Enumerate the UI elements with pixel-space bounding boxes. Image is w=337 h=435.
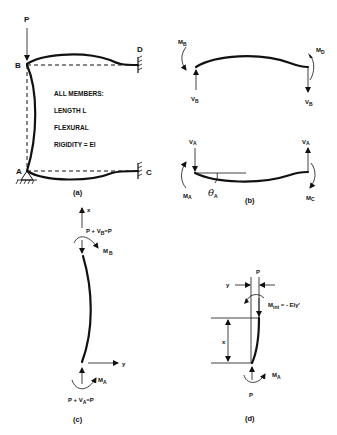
- axis-x-label: x: [87, 207, 91, 213]
- moment-mc-label: MC: [306, 195, 315, 202]
- load-top-label: P: [256, 269, 260, 275]
- caption-a: (a): [73, 188, 83, 197]
- panel-b-bottom-beam: θA VA MA VA MC (b): [182, 139, 316, 205]
- moment-ma-arrow-icon: [182, 162, 187, 188]
- moment-ma-arrow-icon: [244, 374, 265, 382]
- internal-moment-label: Mint = - EIy': [268, 302, 301, 310]
- moment-ma-label: MA: [98, 377, 107, 385]
- moment-mb-arrow-icon: [182, 47, 186, 70]
- internal-moment-arrow-icon: [246, 295, 264, 302]
- panel-d-segment: P y Mint = - EIy' x MA P (d): [211, 269, 301, 423]
- rotation-angle-arc: [215, 173, 217, 183]
- moment-ma-arrow-icon: [72, 378, 96, 389]
- moment-md-label: MD: [316, 47, 325, 55]
- node-label-d: D: [137, 45, 143, 54]
- axis-y-label: y: [122, 361, 126, 367]
- deflection-y-label: y: [226, 282, 230, 288]
- deflected-beam-ac: [27, 171, 138, 180]
- buckling-frame-diagram: P B D C: [0, 0, 337, 435]
- load-bottom-label: P: [249, 392, 253, 398]
- free-body-beam-ac: [195, 172, 308, 182]
- panel-a-frame: P B D C: [15, 15, 152, 197]
- note-line-4: RIGIDITY = EI: [54, 141, 96, 148]
- caption-c: (c): [73, 415, 83, 424]
- node-label-b: B: [15, 61, 21, 70]
- shear-va-right-label: VA: [302, 139, 310, 146]
- moment-mb-label: MB: [103, 248, 113, 256]
- deflected-column-free-body: [82, 256, 91, 362]
- panel-c-column: x P + VB=P MB y MA P + VA=P (c): [68, 207, 126, 424]
- rotation-theta-label: θA: [208, 187, 218, 199]
- moment-mb-arrow-icon: [74, 237, 98, 248]
- top-force-label: P + VB=P: [86, 228, 112, 236]
- deflected-column-ab: [27, 65, 35, 171]
- node-label-a: A: [16, 167, 22, 176]
- moment-mb-label: MB: [178, 39, 187, 47]
- panel-b-top-beam: MB VB MD VB: [178, 39, 325, 107]
- moment-mc-arrow-icon: [310, 163, 315, 188]
- load-label-p: P: [24, 15, 30, 24]
- caption-d: (d): [245, 414, 255, 423]
- moment-md-arrow-icon: [310, 55, 314, 80]
- deflected-beam-bd: [27, 54, 138, 65]
- length-x-label: x: [222, 339, 226, 345]
- bottom-force-label: P + VA=P: [68, 397, 94, 405]
- moment-ma-label: MA: [272, 372, 281, 380]
- node-label-c: C: [146, 168, 152, 177]
- shear-vb-left-label: VB: [191, 96, 199, 104]
- note-line-2: LENGTH L: [54, 107, 87, 114]
- shear-vb-right-label: VB: [305, 99, 313, 107]
- free-body-beam-bd: [196, 56, 308, 67]
- deflected-segment: [252, 318, 259, 363]
- caption-b: (b): [245, 196, 255, 205]
- shear-va-left-label: VA: [189, 139, 197, 146]
- note-line-3: FLEXURAL: [54, 124, 89, 131]
- note-line-1: ALL MEMBERS:: [54, 90, 104, 97]
- moment-ma-label: MA: [183, 193, 192, 200]
